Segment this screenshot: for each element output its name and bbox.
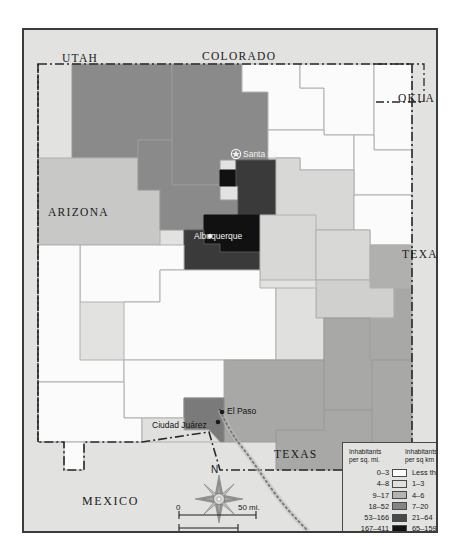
county-union	[374, 64, 412, 150]
legend-headers: Inhabitants per sq. mi. Inhabitants per …	[349, 448, 438, 463]
legend-range-km: 7–20	[407, 502, 428, 511]
legend-header-km: Inhabitants per sq km	[405, 448, 438, 463]
legend-header-miles: Inhabitants per sq. mi.	[349, 448, 399, 463]
legend-row: 167–411 65–159	[349, 523, 438, 533]
legend-row: 0–3 Less than 1	[349, 467, 438, 478]
new-mexico-counties	[38, 64, 412, 470]
legend-swatch	[392, 480, 407, 488]
county-otero	[224, 360, 324, 442]
legend-header-km-line2: per sq km	[405, 456, 434, 463]
legend-header-miles-line1: Inhabitants	[349, 448, 381, 455]
legend-header-km-line1: Inhabitants	[405, 448, 437, 455]
legend-row: 18–52 7–20	[349, 501, 438, 512]
legend-swatch	[392, 525, 407, 533]
ciudad-juarez-dot	[216, 420, 221, 425]
legend-swatch	[392, 502, 407, 510]
legend-row: 53–166 21–64	[349, 512, 438, 523]
state-label-colorado: COLORADO	[202, 50, 276, 62]
legend-range-km: 65–159	[407, 524, 437, 533]
legend-row: 9–17 4–6	[349, 490, 438, 501]
legend: Inhabitants per sq. mi. Inhabitants per …	[342, 442, 438, 533]
state-label-texas-south: TEXAS	[274, 448, 318, 460]
legend-range-km: Less than 1	[407, 468, 438, 477]
legend-range-miles: 4–8	[349, 479, 392, 488]
state-label-arizona: ARIZONA	[48, 206, 109, 218]
county-guadalupe	[316, 230, 370, 280]
legend-swatch	[392, 469, 407, 477]
city-label-albuquerque: Albuquerque	[194, 231, 242, 241]
legend-range-km: 21–64	[407, 513, 433, 522]
map-frame: N	[22, 28, 438, 533]
el-paso-dot	[220, 410, 225, 415]
scale-bars: 0 50 mi. 0 50 km	[176, 504, 286, 533]
scale-miles-zero: 0	[176, 503, 180, 512]
state-label-utah: UTAH	[62, 52, 98, 64]
county-santa-fe	[236, 160, 276, 215]
legend-header-miles-line2: per sq. mi.	[349, 456, 380, 463]
country-label-mexico: MEXICO	[82, 494, 139, 509]
legend-range-miles: 167–411	[349, 524, 392, 533]
legend-range-miles: 53–166	[349, 513, 392, 522]
scale-miles-label: 50 mi.	[238, 503, 260, 512]
scale-km-zero: 0	[176, 529, 180, 533]
city-label-santa-fe: Santa Fe	[243, 149, 278, 159]
legend-range-km: 1–3	[407, 479, 424, 488]
legend-range-km: 4–6	[407, 491, 424, 500]
compass-north-label: N	[211, 464, 218, 475]
city-label-ciudad-juarez: Ciudad Juárez	[152, 420, 207, 430]
legend-range-miles: 0–3	[349, 468, 392, 477]
legend-row: 4–8 1–3	[349, 478, 438, 489]
state-label-oklahoma: OKLA.	[398, 92, 438, 104]
state-label-texas-east: TEXAS	[402, 248, 438, 260]
legend-range-miles: 9–17	[349, 491, 392, 500]
legend-range-miles: 18–52	[349, 502, 392, 511]
legend-swatch	[392, 514, 407, 522]
county-los-alamos	[220, 170, 236, 186]
legend-swatch	[392, 491, 407, 499]
scale-km-label: 50 km	[216, 529, 238, 533]
city-label-el-paso: El Paso	[227, 406, 256, 416]
map-page: N	[0, 0, 460, 557]
county-torrance	[260, 215, 316, 280]
